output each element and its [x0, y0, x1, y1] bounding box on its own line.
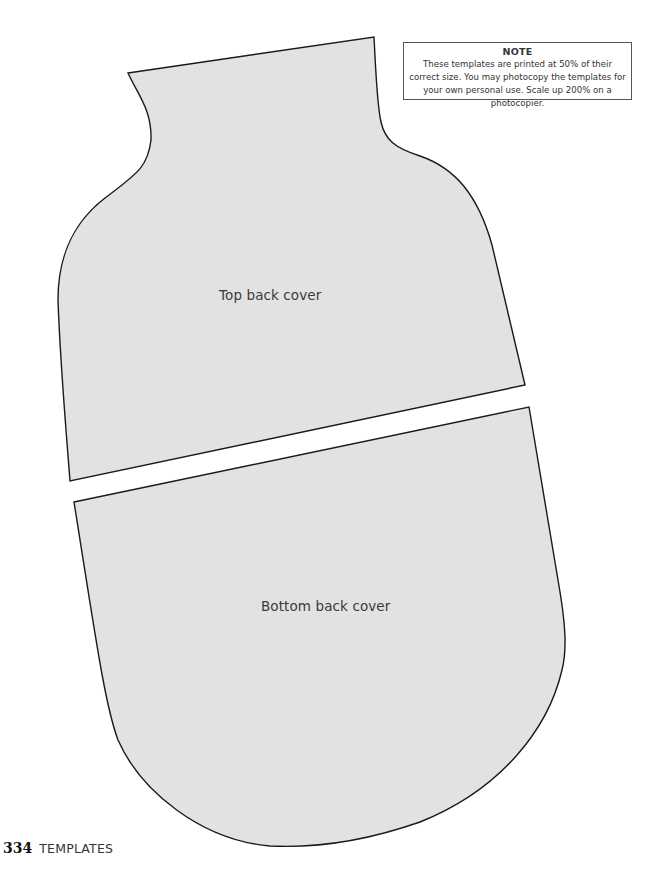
top-back-cover-label: Top back cover: [219, 287, 321, 303]
note-title: NOTE: [404, 45, 631, 58]
note-body: These templates are printed at 50% of th…: [404, 58, 631, 110]
templates-canvas: [0, 0, 671, 885]
note-box: NOTE These templates are printed at 50% …: [403, 42, 632, 100]
bottom-back-cover-label: Bottom back cover: [261, 598, 390, 614]
bottom-back-cover-template: [74, 407, 565, 846]
page-footer: 334TEMPLATES: [3, 838, 113, 857]
section-name: TEMPLATES: [39, 841, 113, 856]
page-number: 334: [3, 840, 32, 856]
